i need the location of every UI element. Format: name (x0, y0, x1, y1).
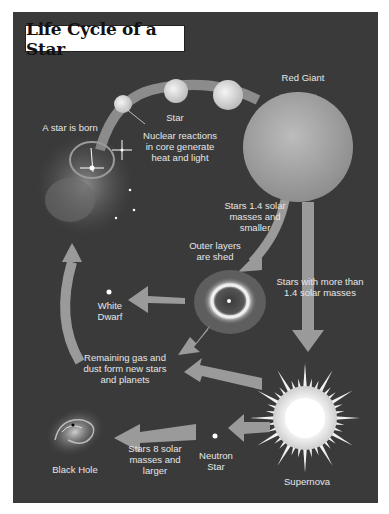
arrow-from-supernova-to-gas (184, 358, 262, 390)
planetary-nebula-icon (194, 270, 266, 334)
label-outer-layers: Outer layers are shed (180, 240, 250, 262)
label-star: Star (160, 112, 190, 123)
nebula-icon (37, 135, 135, 235)
arrow-back-to-nebula (62, 243, 82, 362)
label-neutron-star: Neutron Star (192, 450, 240, 472)
arrow-to-remaining-gas-from-nebula (178, 325, 210, 355)
page-title: Life Cycle of a Star (25, 25, 185, 52)
black-hole-icon (39, 399, 112, 464)
label-supernova: Supernova (277, 476, 337, 487)
supernova-icon (250, 363, 360, 473)
protostar-icon (114, 95, 132, 113)
label-red-giant: Red Giant (268, 72, 338, 83)
red-giant-icon (243, 92, 353, 202)
label-star-born: A star is born (30, 122, 110, 133)
star-icon (164, 79, 188, 103)
label-nuclear-reactions: Nuclear reactions in core generate heat … (135, 130, 225, 163)
label-small-stars: Stars 1.4 solar masses and smaller (215, 200, 295, 233)
label-remaining-gas: Remaining gas and dust form new stars an… (75, 352, 175, 385)
label-black-hole: Black Hole (40, 464, 110, 475)
white-dwarf-icon (107, 290, 112, 295)
arrow-to-white-dwarf (128, 286, 185, 313)
neutron-star-icon (213, 434, 218, 439)
label-large-stars: Stars with more than 1.4 solar masses (270, 276, 370, 298)
label-stars-8-solar: Stars 8 solar masses and larger (120, 443, 190, 476)
growing-star-icon (213, 80, 243, 110)
label-white-dwarf: White Dwarf (90, 300, 130, 322)
